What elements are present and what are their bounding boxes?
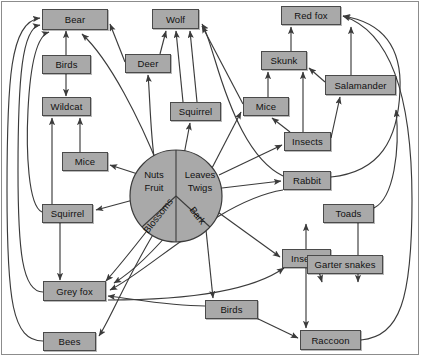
node-birds-top[interactable]: Birds: [42, 55, 91, 74]
node-mice-left[interactable]: Mice: [62, 152, 108, 171]
edge-squirrelmid-wolf-b: [190, 31, 197, 102]
node-label: Skunk: [271, 55, 298, 66]
node-bees[interactable]: Bees: [43, 332, 96, 351]
node-toads[interactable]: Toads: [323, 204, 374, 223]
edge-squirrelmid-wolf-a: [176, 31, 183, 102]
node-label: Birds: [220, 304, 242, 315]
node-label: Raccoon: [311, 335, 349, 346]
node-label: Squirrel: [51, 208, 85, 219]
node-label: Bear: [65, 14, 85, 25]
pie-slice-line: Twigs: [188, 182, 212, 193]
node-squirrel-left[interactable]: Squirrel: [42, 204, 93, 223]
node-raccoon[interactable]: Raccoon: [300, 330, 361, 350]
node-label: Toads: [336, 208, 362, 219]
pie-slice-line: Leaves: [185, 169, 216, 180]
node-garter-snakes[interactable]: Garter snakes: [307, 255, 383, 274]
node-salamander[interactable]: Salamander: [325, 75, 396, 95]
node-label: Squirrel: [179, 106, 213, 117]
edge-hub-insects-top: [219, 145, 282, 175]
edge-rabbit-redfox: [331, 16, 400, 177]
node-wolf[interactable]: Wolf: [152, 9, 199, 29]
edge-insectstop-salamander: [331, 97, 340, 138]
edge-toads-redfoxcurve: [374, 110, 397, 208]
node-label: Birds: [55, 59, 77, 70]
node-insects-top[interactable]: Insects: [284, 132, 331, 151]
node-mice-mid[interactable]: Mice: [243, 97, 289, 116]
node-label: Grey fox: [56, 286, 93, 297]
node-label: Mice: [256, 101, 276, 112]
edge-greyfox-bear: [18, 25, 43, 292]
node-grey-fox[interactable]: Grey fox: [43, 281, 106, 301]
edge-deer-bear: [110, 24, 125, 62]
edge-deer-wolf: [160, 31, 166, 54]
pie-slice-line: Nuts: [144, 169, 164, 180]
node-label: Garter snakes: [315, 259, 376, 270]
node-wildcat[interactable]: Wildcat: [42, 97, 91, 116]
edge-salamander-skunk: [309, 68, 325, 82]
node-label: Wildcat: [51, 101, 83, 112]
edge-hub-insects-bot: [215, 210, 280, 257]
node-label: Rabbit: [293, 175, 321, 186]
node-label: Insects: [292, 136, 323, 147]
node-squirrel-mid[interactable]: Squirrel: [170, 102, 221, 121]
edge-insectstop-micemid: [272, 118, 290, 132]
node-deer[interactable]: Deer: [125, 54, 171, 73]
edge-raccoon-redfox: [343, 16, 412, 340]
node-birds-bot[interactable]: Birds: [205, 300, 258, 319]
pie-slice-nuts-fruit: Nuts Fruit: [132, 168, 176, 194]
node-label: Mice: [75, 156, 95, 167]
edge-bees-bear: [7, 18, 43, 341]
node-label: Bees: [58, 336, 80, 347]
edge-hub-rabbit: [222, 181, 281, 188]
node-bear[interactable]: Bear: [42, 9, 108, 30]
node-rabbit[interactable]: Rabbit: [283, 171, 331, 190]
edge-greyfox-right: [108, 268, 284, 300]
node-label: Deer: [138, 58, 159, 69]
pie-slice-line: Fruit: [145, 182, 164, 193]
node-skunk[interactable]: Skunk: [261, 51, 307, 70]
plant-resources-pie: Nuts Fruit Leaves Twigs Blossoms Bark: [128, 148, 224, 244]
node-label: Salamander: [334, 80, 386, 91]
pie-slice-leaves-twigs: Leaves Twigs: [178, 168, 222, 194]
node-red-fox[interactable]: Red fox: [281, 6, 341, 25]
node-label: Red fox: [294, 10, 327, 21]
node-label: Wolf: [166, 14, 185, 25]
edge-birdsbot-greyfox: [108, 296, 205, 306]
food-web-diagram: Nuts Fruit Leaves Twigs Blossoms Bark Be…: [0, 0, 425, 360]
